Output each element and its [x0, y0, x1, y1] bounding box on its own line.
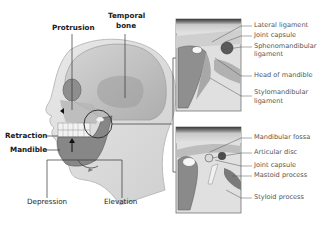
label-elevation: Elevation — [104, 198, 137, 206]
label-protrusion: Protrusion — [52, 24, 95, 32]
label-mandibular-fossa: Mandibular fossa — [254, 134, 310, 142]
label-joint-capsule-bottom: Joint capsule — [254, 162, 296, 170]
label-temporal-bone-line1: Temporal — [108, 12, 145, 20]
label-articular-disc: Articular disc — [254, 149, 297, 157]
inset-top — [176, 19, 241, 111]
label-stylomandibular-line2: ligament — [254, 98, 283, 106]
label-retraction: Retraction — [5, 132, 47, 140]
label-mastoid-process: Mastoid process — [254, 172, 307, 180]
inset-bottom — [176, 127, 241, 213]
label-sphenomandibular-line2: ligament — [254, 51, 283, 59]
label-joint-capsule-top: Joint capsule — [254, 32, 296, 40]
label-lateral-ligament: Lateral ligament — [254, 22, 308, 30]
label-styloid-process: Styloid process — [254, 194, 304, 202]
label-depression: Depression — [27, 198, 67, 206]
label-mandible: Mandible — [10, 146, 47, 154]
label-temporal-bone-line2: bone — [116, 22, 136, 30]
label-head-of-mandible: Head of mandible — [254, 72, 313, 80]
label-stylomandibular: Stylomandibular — [254, 89, 308, 97]
